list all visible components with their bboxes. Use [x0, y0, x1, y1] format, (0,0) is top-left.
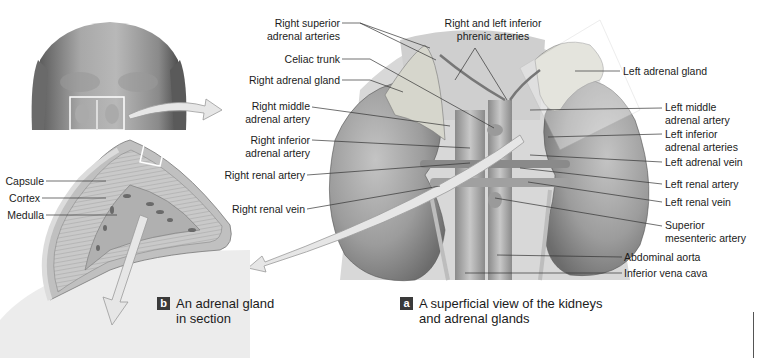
label-inferior-phrenic-arteries: Right and left inferior phrenic arteries [428, 17, 558, 42]
label-inferior-vena-cava: Inferior vena cava [624, 267, 707, 280]
label-left-middle-adrenal-artery: Left middle adrenal artery [665, 101, 730, 126]
label-superior-mesenteric-artery: Superior mesenteric artery [665, 219, 746, 244]
label-left-adrenal-vein: Left adrenal vein [665, 156, 743, 169]
label-left-adrenal-gland: Left adrenal gland [623, 65, 707, 78]
label-left-inferior-adrenal-arteries: Left inferior adrenal arteries [665, 128, 738, 153]
badge-b: b [157, 297, 170, 310]
label-right-renal-artery: Right renal artery [195, 169, 305, 182]
label-cortex: Cortex [0, 192, 40, 205]
label-left-renal-artery: Left renal artery [665, 178, 739, 191]
badge-a: a [400, 297, 413, 310]
label-right-adrenal-gland: Right adrenal gland [220, 74, 340, 87]
label-capsule: Capsule [0, 175, 44, 188]
label-abdominal-aorta: Abdominal aorta [624, 251, 700, 264]
torso-photo [32, 22, 187, 130]
label-celiac-trunk: Celiac trunk [220, 53, 340, 66]
caption-panel-a: aA superficial view of the kidneys and a… [400, 296, 603, 326]
label-medulla: Medulla [0, 209, 44, 222]
label-left-renal-vein: Left renal vein [665, 196, 731, 209]
page-edge-divider [753, 312, 754, 358]
label-right-renal-vein: Right renal vein [195, 203, 305, 216]
anatomy-illustration [0, 0, 757, 358]
label-right-superior-adrenal-arteries: Right superior adrenal arteries [220, 17, 340, 42]
label-right-middle-adrenal-artery: Right middle adrenal artery [210, 100, 310, 125]
label-right-inferior-adrenal-artery: Right inferior adrenal artery [210, 134, 310, 159]
caption-panel-b: bAn adrenal gland in section [157, 296, 274, 326]
